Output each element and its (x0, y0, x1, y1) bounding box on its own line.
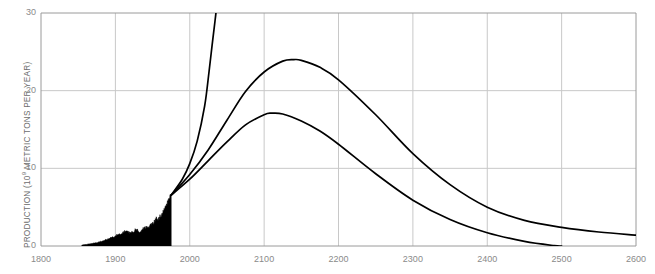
x-tick-label: 2600 (616, 254, 655, 264)
x-tick-label: 1800 (21, 254, 61, 264)
x-tick-label: 2400 (467, 254, 507, 264)
x-tick-label: 2100 (244, 254, 284, 264)
y-tick-label: 30 (10, 7, 36, 17)
y-axis-title-base: PRODUCTION (10 (23, 175, 32, 248)
chart-plot-svg (0, 0, 655, 274)
x-tick-label: 2300 (393, 254, 433, 264)
series-historical-production (82, 195, 171, 246)
x-tick-label: 1900 (95, 254, 135, 264)
series-exponential-growth-projection (171, 1, 217, 195)
production-projection-chart: PRODUCTION (109 METRIC TONS PER YEAR) 01… (0, 0, 655, 274)
y-axis-title-tail: METRIC TONS PER YEAR) (23, 62, 32, 172)
series-upper-hubbert-projection (171, 59, 636, 235)
x-tick-label: 2000 (170, 254, 210, 264)
grid-lines (41, 13, 636, 246)
series-lower-hubbert-projection (171, 113, 561, 246)
y-axis-title: PRODUCTION (109 METRIC TONS PER YEAR) (16, 8, 32, 248)
y-tick-label: 0 (10, 240, 36, 250)
x-tick-label: 2200 (319, 254, 359, 264)
x-tick-label: 2500 (542, 254, 582, 264)
y-tick-label: 10 (10, 162, 36, 172)
data-series (82, 1, 636, 246)
y-tick-label: 20 (10, 85, 36, 95)
